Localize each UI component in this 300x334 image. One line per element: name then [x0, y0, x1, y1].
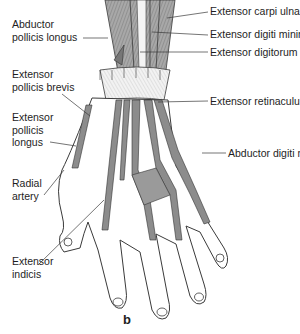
label-extensor-carpi-ulnaris: Extensor carpi ulnaris: [210, 5, 300, 18]
extensor-retinaculum: [100, 67, 170, 100]
label-extensor-digiti-minimi: Extensor digiti minimi: [210, 28, 300, 41]
label-extensor-pollicis-brevis: Extensor pollicis brevis: [12, 68, 74, 93]
forearm-muscles: [105, 0, 175, 72]
label-abductor-digiti-minimi: Abductor digiti minmi: [228, 147, 300, 160]
label-extensor-retinaculum: Extensor retinaculum: [210, 95, 300, 108]
label-abductor-pollicis-longus: Abductor pollicis longus: [12, 18, 77, 43]
label-radial-artery: Radial artery: [12, 177, 42, 202]
label-extensor-pollicis-longus: Extensor pollicis longus: [12, 111, 53, 149]
label-extensor-digitorum: Extensor digitorum: [210, 46, 298, 59]
subfigure-label: b: [123, 312, 131, 327]
label-extensor-indicis: Extensor indicis: [12, 255, 53, 280]
